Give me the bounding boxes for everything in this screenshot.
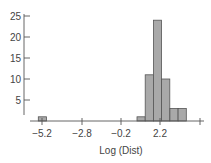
y-tick-label: 20 <box>10 32 22 43</box>
x-tick-label: −5.2 <box>32 128 52 139</box>
histogram-bar <box>153 20 161 121</box>
histogram-chart: 510152025 −5.2−2.8−0.22.2 Log (Dist) <box>0 0 211 163</box>
x-axis: −5.2−2.8−0.22.2 <box>30 118 204 139</box>
y-tick-label: 25 <box>10 11 22 22</box>
y-tick-label: 10 <box>10 74 22 85</box>
y-tick-label: 5 <box>15 95 21 106</box>
x-tick-label: −2.8 <box>72 128 92 139</box>
x-axis-title: Log (Dist) <box>99 145 142 156</box>
y-tick-label: 15 <box>10 53 22 64</box>
histogram-bar <box>170 108 178 121</box>
histogram-bar <box>162 79 170 121</box>
histogram-bar <box>137 117 145 121</box>
x-tick-label: −0.2 <box>111 128 131 139</box>
x-tick-label: 2.2 <box>153 128 167 139</box>
y-axis: 510152025 <box>10 11 30 116</box>
histogram-bars <box>38 20 186 121</box>
histogram-bar <box>178 108 186 121</box>
histogram-bar <box>145 75 153 121</box>
